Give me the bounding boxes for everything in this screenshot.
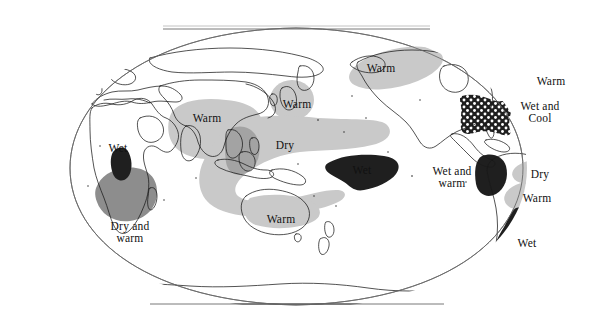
coast-greenland: [468, 33, 515, 72]
anomaly-shape-eastern-us-warm: [489, 62, 523, 94]
climate-anomaly-world-map: Wet Dry and warm Warm Warm Dry Wet Warm …: [0, 0, 593, 336]
map-frame: [70, 26, 523, 305]
anomaly-shape-japan-warm: [270, 80, 314, 120]
anomaly-shape-east-africa-wet: [111, 148, 132, 181]
coast-antarctic-peninsula: [486, 279, 508, 294]
coast-british-isles: [94, 85, 102, 95]
world-map-graphic: [0, 0, 593, 336]
